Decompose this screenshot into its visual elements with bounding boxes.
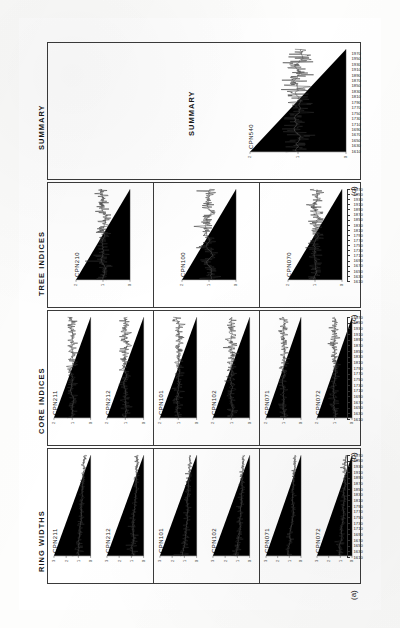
- year-tick-mark: [347, 500, 350, 501]
- year-tick-label: 1830: [352, 88, 361, 93]
- year-tick-label: 1710: [354, 253, 363, 258]
- y-tick-label: 2: [315, 422, 319, 424]
- year-tick-label: 1710: [354, 388, 363, 393]
- year-tick-mark: [347, 413, 350, 414]
- year-tick-mark: [347, 317, 350, 318]
- year-tick-label: 1910: [354, 202, 363, 207]
- year-tick-label: 1610: [354, 278, 363, 283]
- year-tick-mark: [347, 240, 350, 241]
- panel-cell-c-1: CPN100012: [154, 183, 260, 307]
- year-tick-mark: [347, 230, 350, 231]
- year-tick-label: 1630: [354, 411, 363, 416]
- plot-CPN101: 0123: [154, 449, 207, 583]
- year-tick-label: 1970: [352, 50, 361, 55]
- panel-column-b: CPN211012CPN212012CPN101012CPN102012CPN0…: [47, 310, 361, 446]
- year-tick-label: 1850: [352, 83, 361, 88]
- year-tick-label: 1970: [354, 452, 363, 457]
- year-tick-mark: [347, 362, 350, 363]
- y-tick-label: 3: [315, 560, 319, 562]
- plot-CPN101: 012: [154, 311, 207, 445]
- panel-column-c: CPN210012CPN100012CPN070012: [47, 182, 361, 308]
- year-tick-label: 1810: [352, 94, 361, 99]
- year-tick-mark: [347, 506, 350, 507]
- y-tick-label: 3: [211, 560, 215, 562]
- y-tick-label: 1: [235, 560, 239, 562]
- panel-cell-b-0: CPN211012CPN212012: [48, 311, 154, 445]
- year-tick-label: 1690: [354, 532, 363, 537]
- year-tick-mark: [347, 529, 350, 530]
- y-tick-label: 1: [229, 422, 233, 424]
- year-tick-mark: [347, 385, 350, 386]
- year-tick-label: 1610: [354, 554, 363, 559]
- year-tick-label: 1890: [354, 337, 363, 342]
- year-tick-mark: [347, 357, 350, 358]
- plot-CPN212: 012: [101, 311, 154, 445]
- year-tick-label: 1830: [354, 354, 363, 359]
- year-axis-labels-1: 1610163016501670169017101730175017701790…: [347, 318, 361, 420]
- year-tick-label: 1930: [354, 464, 363, 469]
- panel-column-d: SUMMARYCPN540012: [47, 42, 361, 180]
- series-block-CPN100: CPN100012: [176, 183, 246, 307]
- column-title-ring-widths: RING WIDTHS: [37, 510, 46, 572]
- year-tick-label: 1690: [354, 258, 363, 263]
- panel-grid: RING WIDTHS(a)CPN2110123CPN2120123CPN101…: [37, 42, 361, 584]
- year-axis-labels-0: 1610163016501670169017101730175017701790…: [347, 456, 361, 558]
- plot-CPN102: 0123: [207, 449, 260, 583]
- year-tick-mark: [347, 340, 350, 341]
- year-tick-label: 1830: [354, 222, 363, 227]
- y-tick-label: 0: [340, 284, 344, 286]
- year-tick-label: 1730: [352, 116, 361, 121]
- year-tick-mark: [347, 472, 350, 473]
- year-tick-label: 1670: [354, 263, 363, 268]
- panel-cell-c-0: CPN210012: [48, 183, 154, 307]
- year-tick-label: 1670: [352, 132, 361, 137]
- year-tick-mark: [347, 266, 350, 267]
- y-tick-label: 1: [177, 422, 181, 424]
- y-tick-label: 2: [180, 284, 184, 286]
- year-tick-mark: [347, 466, 350, 467]
- y-tick-label: 2: [286, 284, 290, 286]
- year-axis-labels-2: 1610163016501670169017101730175017701790…: [347, 190, 361, 282]
- year-tick-label: 1970: [354, 186, 363, 191]
- year-tick-label: 1950: [352, 56, 361, 61]
- plot-CPN211: 0123: [48, 449, 101, 583]
- y-tick-label: 1: [288, 560, 292, 562]
- y-tick-label: 1: [101, 284, 105, 286]
- year-tick-mark: [347, 379, 350, 380]
- year-tick-label: 1670: [354, 399, 363, 404]
- panel-cell-a-0: CPN2110123CPN2120123: [48, 449, 154, 583]
- y-tick-label: 2: [264, 422, 268, 424]
- series-block-CPN102: CPN1020123: [207, 449, 260, 583]
- series-block-CPN102: CPN102012: [207, 311, 260, 445]
- column-title-summary: SUMMARY: [37, 104, 46, 150]
- year-tick-label: 1730: [354, 248, 363, 253]
- year-tick-label: 1730: [354, 382, 363, 387]
- year-tick-label: 1730: [354, 520, 363, 525]
- y-tick-label: 3: [264, 560, 268, 562]
- y-tick-label: 0: [234, 284, 238, 286]
- y-tick-label: 1: [123, 422, 127, 424]
- column-title-core-indices: CORE INDICES: [37, 367, 46, 434]
- series-block-CPN101: CPN101012: [154, 311, 207, 445]
- year-tick-mark: [347, 189, 350, 190]
- year-tick-label: 1610: [354, 416, 363, 421]
- year-tick-mark: [347, 250, 350, 251]
- year-tick-label: 1870: [354, 343, 363, 348]
- year-tick-mark: [347, 220, 350, 221]
- series-block-CPN212: CPN2120123: [101, 449, 154, 583]
- y-tick-label: 2: [105, 422, 109, 424]
- year-tick-mark: [347, 225, 350, 226]
- year-tick-label: 1850: [354, 486, 363, 491]
- year-tick-label: 1890: [354, 475, 363, 480]
- y-tick-label: 0: [344, 156, 348, 158]
- year-tick-label: 1690: [354, 394, 363, 399]
- rotation-wrapper: RING WIDTHS(a)CPN2110123CPN2120123CPN101…: [0, 0, 400, 628]
- year-tick-mark: [347, 461, 350, 462]
- y-tick-label: 0: [195, 560, 199, 562]
- year-tick-mark: [347, 523, 350, 524]
- y-tick-label: 0: [89, 560, 93, 562]
- year-tick-mark: [347, 483, 350, 484]
- y-tick-label: 1: [183, 560, 187, 562]
- year-tick-label: 1770: [354, 237, 363, 242]
- year-tick-label: 1890: [352, 72, 361, 77]
